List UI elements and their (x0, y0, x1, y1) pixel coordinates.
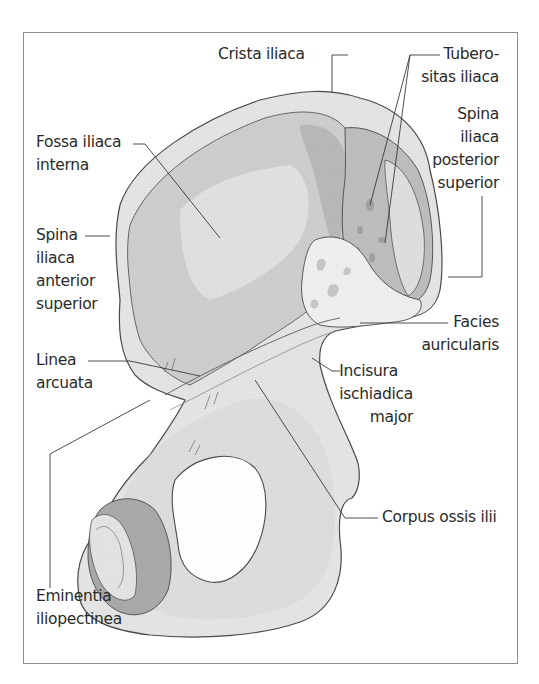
label-tuberositas-iliaca: Tubero- sitas iliaca (421, 43, 499, 89)
label-incisura-ischiadica-major: Incisura ischiadica major (339, 360, 413, 429)
label-spina-iliaca-posterior-superior: Spina iliaca posterior superior (432, 103, 499, 195)
label-corpus-ossis-ilii: Corpus ossis ilii (382, 506, 496, 529)
label-facies-auricularis: Facies auricularis (421, 311, 499, 357)
label-fossa-iliaca-interna: Fossa iliaca interna (36, 131, 121, 177)
label-spina-iliaca-anterior-superior: Spina iliaca anterior superior (36, 224, 97, 316)
label-eminentia-iliopectinea: Eminentia iliopectinea (36, 585, 122, 631)
label-linea-arcuata: Linea arcuata (36, 349, 93, 395)
label-crista-iliaca: Crista iliaca (218, 43, 305, 66)
